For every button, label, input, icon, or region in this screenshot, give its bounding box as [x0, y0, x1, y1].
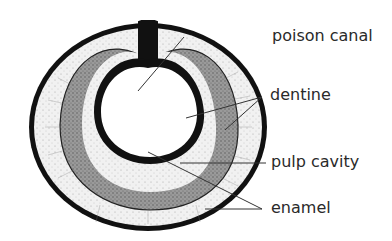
- fang-cross-section-diagram: poison canal dentine pulp cavity enamel: [0, 0, 392, 241]
- label-poison-canal: poison canal: [272, 28, 373, 44]
- poison-canal: [101, 67, 197, 157]
- label-dentine: dentine: [270, 87, 331, 103]
- label-pulp-cavity: pulp cavity: [271, 154, 359, 170]
- label-enamel: enamel: [271, 200, 331, 216]
